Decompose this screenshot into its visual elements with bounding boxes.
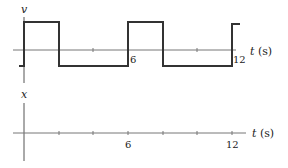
tick-label-12-top: 12 [233, 54, 246, 65]
tick-label-6-top: 6 [130, 54, 136, 65]
t-axis-label-bottom: t (s) [252, 127, 274, 140]
v-axis-label: v [21, 3, 28, 16]
x-axis-label: x [21, 88, 28, 101]
tick-label-6-bottom: 6 [125, 139, 131, 150]
tick-label-12-bottom: 12 [226, 139, 239, 150]
t-axis-label-top: t (s) [250, 45, 272, 58]
diagram: v 6 12 t (s) x 6 12 t (s) [0, 0, 288, 168]
position-plot: x 6 12 t (s) [13, 88, 274, 161]
velocity-plot: v 6 12 t (s) [13, 3, 272, 83]
